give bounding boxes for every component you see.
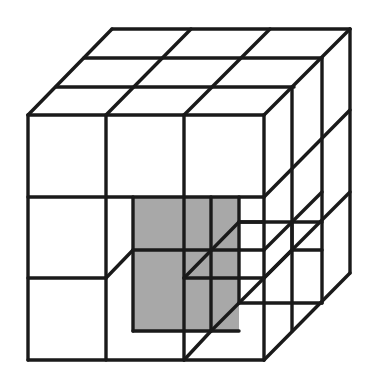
shaded-region [133,198,239,331]
cube-edge-line [264,250,292,278]
shaded-inner-face [133,198,239,331]
cube-edge-line [184,331,211,360]
cube-edge-line [264,29,350,115]
cube-edge-line [264,273,350,360]
cube-edge-line [264,110,350,197]
cube-edge-line [28,29,112,115]
cube-figure-svg [0,0,372,375]
cube-edge-line [184,29,270,115]
cube-edge-line [106,250,133,278]
cube-diagram [0,0,372,375]
cube-edge-line [106,29,191,115]
